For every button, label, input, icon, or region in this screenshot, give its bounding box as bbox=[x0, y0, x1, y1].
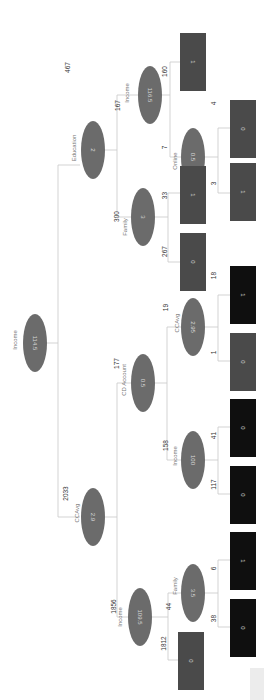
node-ccavg-2-95: 2.95 bbox=[181, 298, 205, 356]
edge-count: 38 bbox=[210, 609, 217, 629]
edge-count: 158 bbox=[162, 436, 169, 456]
leaf-node: 0 bbox=[230, 599, 256, 657]
edge-count: 160 bbox=[161, 62, 168, 82]
node-feature-label: Education bbox=[71, 128, 77, 168]
leaf-class: 0 bbox=[240, 493, 246, 496]
node-threshold: 109.5 bbox=[137, 609, 143, 624]
edge-count: 117 bbox=[210, 475, 217, 495]
node-education: 2 bbox=[81, 121, 105, 179]
node-ccavg: 2.9 bbox=[81, 488, 105, 546]
leaf-node: 1 bbox=[230, 266, 256, 324]
node-family-3: 3 bbox=[131, 188, 155, 246]
node-feature-label: CCAvg bbox=[74, 498, 80, 528]
leaf-class: 0 bbox=[190, 260, 196, 263]
node-threshold: 0.5 bbox=[140, 379, 146, 387]
edge-count: 1812 bbox=[160, 634, 167, 654]
edge-count: 300 bbox=[113, 207, 120, 227]
node-threshold: 0.5 bbox=[190, 153, 196, 161]
leaf-class: 1 bbox=[240, 293, 246, 296]
node-income-109-5: 109.5 bbox=[128, 588, 152, 646]
leaf-class: 0 bbox=[188, 659, 194, 662]
edge-count: 19 bbox=[162, 298, 169, 318]
leaf-class: 1 bbox=[240, 190, 246, 193]
leaf-class: 1 bbox=[190, 193, 196, 196]
leaf-class: 0 bbox=[240, 626, 246, 629]
leaf-node: 0 bbox=[178, 632, 204, 690]
node-threshold: 114.5 bbox=[32, 336, 38, 351]
node-threshold: 3.5 bbox=[190, 589, 196, 597]
leaf-node: 1 bbox=[180, 166, 206, 224]
edge-count: 4 bbox=[210, 94, 217, 114]
node-feature-label: Family bbox=[122, 212, 128, 242]
edge-count: 3 bbox=[210, 174, 217, 194]
edge-count: 18 bbox=[210, 266, 217, 286]
node-threshold: 116.5 bbox=[147, 88, 153, 103]
edge-count: 267 bbox=[161, 242, 168, 262]
node-feature-label: Income bbox=[12, 325, 18, 355]
edge-count: 33 bbox=[161, 186, 168, 206]
node-feature-label: Income bbox=[117, 602, 123, 632]
leaf-class: 0 bbox=[240, 127, 246, 130]
node-income-116-5: 116.5 bbox=[138, 66, 162, 124]
node-threshold: 2 bbox=[90, 148, 96, 151]
node-cd-account: 0.5 bbox=[131, 354, 155, 412]
leaf-class: 0 bbox=[240, 360, 246, 363]
leaf-node: 1 bbox=[180, 33, 206, 91]
decision-tree: 114.5 Income 2 Education 467 2.9 CCAvg 2… bbox=[0, 0, 268, 700]
edge-count: 41 bbox=[210, 426, 217, 446]
node-threshold: 2.95 bbox=[190, 321, 196, 333]
leaf-node: 0 bbox=[230, 333, 256, 391]
node-feature-label: CD Account bbox=[121, 360, 127, 400]
edge-count: 6 bbox=[210, 559, 217, 579]
node-family-3-5: 3.5 bbox=[181, 564, 205, 622]
node-feature-label: Family bbox=[172, 571, 178, 601]
leaf-class: 0 bbox=[240, 426, 246, 429]
edge-count: 467 bbox=[64, 58, 71, 78]
leaf-node: 0 bbox=[230, 466, 256, 524]
leaf-node: 0 bbox=[230, 100, 256, 158]
node-threshold: 100 bbox=[190, 455, 196, 465]
node-threshold: 2.9 bbox=[90, 513, 96, 521]
root-node: 114.5 bbox=[23, 314, 47, 372]
node-feature-label: CCAvg bbox=[174, 308, 180, 338]
edge-count: 44 bbox=[165, 597, 172, 617]
edge-count: 1 bbox=[210, 343, 217, 363]
edge-count: 7 bbox=[161, 138, 168, 158]
leaf-node: 0 bbox=[230, 399, 256, 457]
leaf-node: 1 bbox=[230, 163, 256, 221]
edge-count: 167 bbox=[114, 96, 121, 116]
leaf-class: 1 bbox=[190, 60, 196, 63]
scrollbar-stub bbox=[250, 668, 264, 700]
edge-count: 2033 bbox=[62, 484, 69, 504]
node-feature-label: Income bbox=[124, 78, 130, 108]
node-feature-label: Income bbox=[172, 441, 178, 471]
leaf-node: 0 bbox=[180, 233, 206, 291]
leaf-class: 1 bbox=[240, 559, 246, 562]
node-feature-label: Online bbox=[172, 146, 178, 176]
edge-count: 177 bbox=[113, 354, 120, 374]
node-income-100: 100 bbox=[181, 431, 205, 489]
leaf-node: 1 bbox=[230, 532, 256, 590]
edge-count: 1856 bbox=[110, 597, 117, 617]
node-threshold: 3 bbox=[140, 215, 146, 218]
